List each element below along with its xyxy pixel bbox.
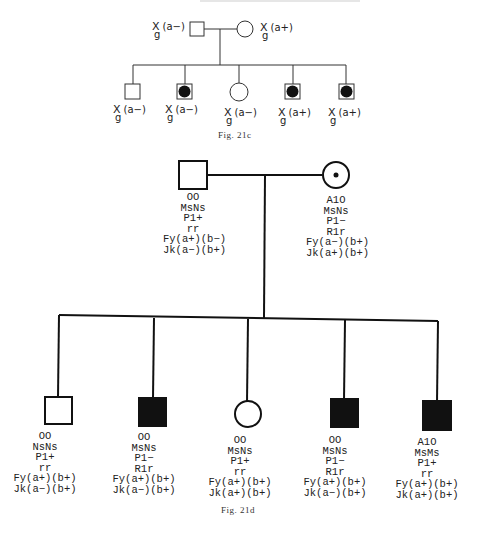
fig21c-father-symbol xyxy=(190,22,204,36)
fig21c-child-5-label: Xg(a+) xyxy=(328,107,361,118)
fig21c-child-2-label: Xg(a−) xyxy=(165,104,198,115)
fig21d-child-4-genotype: OO MsNs P1− R1r Fy(a+)(b+) Jk(a−)(b+) xyxy=(303,435,367,498)
fig21c-father-label: Xg(a−) xyxy=(152,21,185,32)
fig21c-mother-label: Xg(a+) xyxy=(260,22,293,33)
fig21c-mother-symbol xyxy=(237,21,253,37)
fig21c-caption: Fig. 21c xyxy=(218,130,252,140)
fig21d-mother-genotype: A1O MsNs P1− R1r Fy(a−)(b+) Jk(a+)(b+) xyxy=(306,195,366,258)
fig21d-father-genotype: OO MsNs P1+ rr Fy(a+)(b−) Jk(a−)(b+) xyxy=(163,192,223,255)
fig21c-child-3-label: Xg(a−) xyxy=(224,107,257,118)
fig21c-child-1-label: Xg(a−) xyxy=(113,104,146,115)
fig21d-child-1-genotype: OO NsNs P1+ rr Fy(a+)(b+) Jk(a−)(b+) xyxy=(13,431,77,494)
fig21c-child-4-label: Xg(a+) xyxy=(278,107,311,118)
fig21d-caption: Fig. 21d xyxy=(221,505,255,515)
fig21d-child-2-genotype: OO MsNs P1− R1r Fy(a+)(b+) Jk(a−)(b+) xyxy=(112,432,176,495)
fig21d-child-3-genotype: OO MsNs P1+ rr Fy(a+)(b+) Jk(a+)(b+) xyxy=(208,435,272,498)
fig21d-child-5-genotype: A1O MsMs P1+ rr Fy(a+)(b+) Jk(a+)(b+) xyxy=(395,437,459,500)
